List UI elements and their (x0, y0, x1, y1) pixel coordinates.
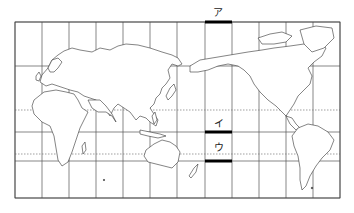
label-u: ウ (214, 143, 224, 153)
africa-landmass (32, 90, 88, 166)
atlantic-island (103, 179, 104, 180)
indonesia (140, 130, 166, 138)
label-a: ア (213, 8, 223, 18)
north-america-landmass (190, 42, 326, 116)
british-isles (36, 72, 41, 81)
highlight-bars (205, 22, 232, 161)
world-map (0, 0, 354, 213)
label-i: イ (214, 119, 224, 129)
madagascar (82, 142, 86, 154)
falkland-island (311, 187, 313, 189)
japan (166, 84, 176, 100)
australia-landmass (144, 140, 180, 168)
landmasses (32, 26, 334, 190)
arctic-archipelago (258, 32, 292, 44)
new-zealand (189, 164, 198, 178)
